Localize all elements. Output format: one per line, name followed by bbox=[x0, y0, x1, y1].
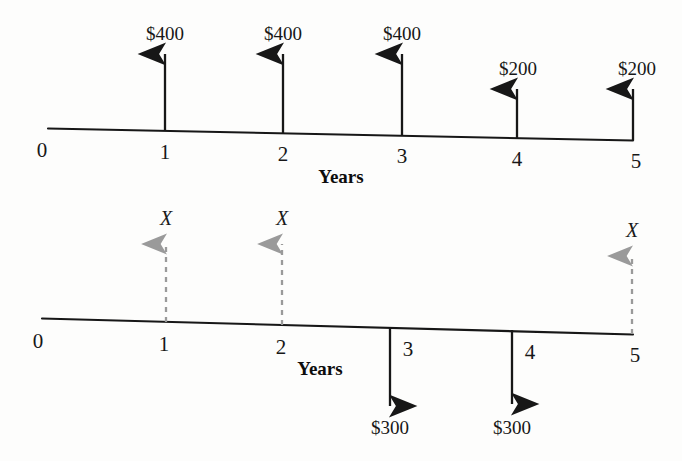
top-amount-label-year1: $400 bbox=[146, 23, 184, 44]
top-amount-label-year2: $400 bbox=[264, 23, 302, 44]
timeline-diagram: $400 $400 $400 $200 $200 0 1 2 3 4 5 Yea… bbox=[0, 0, 682, 461]
bottom-tick-label-4: 4 bbox=[525, 340, 536, 364]
top-tick-label-5: 5 bbox=[631, 149, 642, 173]
top-tick-label-1: 1 bbox=[160, 140, 171, 164]
top-tick-label-4: 4 bbox=[512, 147, 523, 171]
bottom-amount-label-year4: $300 bbox=[493, 417, 531, 438]
top-tick-label-3: 3 bbox=[397, 144, 408, 168]
bottom-timeline: X X X $300 $300 0 1 2 3 4 5 Years bbox=[33, 207, 641, 438]
top-axis-line bbox=[48, 129, 633, 141]
cash-flow-diagram-page: $400 $400 $400 $200 $200 0 1 2 3 4 5 Yea… bbox=[0, 0, 682, 461]
bottom-tick-label-3: 3 bbox=[403, 337, 414, 361]
bottom-axis-line bbox=[42, 319, 633, 335]
bottom-amount-label-year3: $300 bbox=[371, 417, 409, 438]
bottom-tick-label-5: 5 bbox=[630, 343, 641, 367]
bottom-tick-label-0: 0 bbox=[33, 329, 44, 353]
top-amount-label-year5: $200 bbox=[618, 58, 656, 79]
top-tick-label-0: 0 bbox=[37, 138, 48, 162]
top-axis-title: Years bbox=[318, 166, 363, 187]
top-timeline: $400 $400 $400 $200 $200 0 1 2 3 4 5 Yea… bbox=[37, 23, 656, 187]
bottom-tick-label-1: 1 bbox=[159, 332, 170, 356]
bottom-axis-title: Years bbox=[297, 358, 342, 379]
top-tick-label-2: 2 bbox=[278, 142, 289, 166]
top-amount-label-year3: $400 bbox=[383, 23, 421, 44]
top-amount-label-year4: $200 bbox=[499, 58, 537, 79]
bottom-unknown-label-year2: X bbox=[275, 207, 289, 229]
bottom-unknown-label-year5: X bbox=[625, 219, 639, 241]
bottom-unknown-label-year1: X bbox=[159, 207, 173, 229]
bottom-tick-label-2: 2 bbox=[276, 335, 287, 359]
